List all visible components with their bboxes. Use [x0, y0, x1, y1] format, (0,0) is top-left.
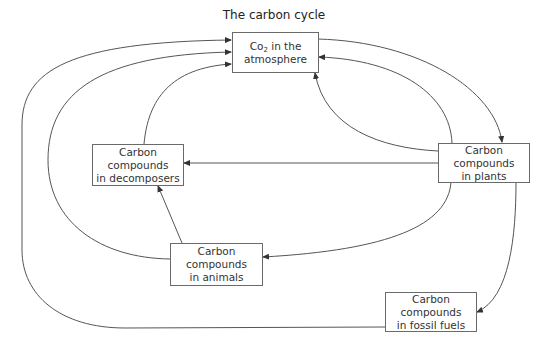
node-plants-line3: in plants	[461, 170, 506, 183]
arrow-atmosphere-to-plants	[318, 39, 502, 142]
arrow-decomposers-to-atmosphere	[144, 64, 231, 144]
arrow-plants-to-atmosphere-right	[319, 57, 452, 143]
node-fossil-line3: in fossil fuels	[397, 319, 465, 332]
node-plants-line1: Carbon	[465, 144, 503, 157]
node-atmosphere-line1: Co2 in the	[250, 40, 302, 53]
carbon-cycle-diagram: The carbon cycle	[0, 0, 548, 349]
node-animals: Carbon compounds in animals	[170, 243, 263, 286]
node-fossil-fuels: Carbon compounds in fossil fuels	[385, 292, 477, 332]
arrow-plants-to-atmosphere-bottom	[315, 73, 438, 151]
node-plants-line2: compounds	[454, 157, 515, 170]
node-plants: Carbon compounds in plants	[438, 143, 530, 183]
in-the-text: in the	[268, 40, 301, 52]
node-animals-line2: compounds	[186, 258, 247, 271]
node-animals-line3: in animals	[190, 271, 244, 284]
arrow-plants-to-fossil	[477, 182, 516, 312]
node-animals-line1: Carbon	[198, 245, 236, 258]
node-decomposers-line1: Carbon	[119, 146, 157, 159]
arrow-animals-to-decomposers	[158, 186, 182, 243]
co-text: Co	[250, 40, 264, 52]
node-decomposers: Carbon compounds in decomposers	[92, 144, 184, 186]
node-fossil-line2: compounds	[401, 306, 462, 319]
node-decomposers-line3: in decomposers	[96, 172, 179, 185]
node-atmosphere-line2: atmosphere	[244, 53, 307, 66]
node-decomposers-line2: compounds	[108, 159, 169, 172]
arrow-plants-to-animals	[263, 182, 451, 257]
node-fossil-line1: Carbon	[412, 293, 450, 306]
node-atmosphere: Co2 in the atmosphere	[232, 32, 319, 73]
